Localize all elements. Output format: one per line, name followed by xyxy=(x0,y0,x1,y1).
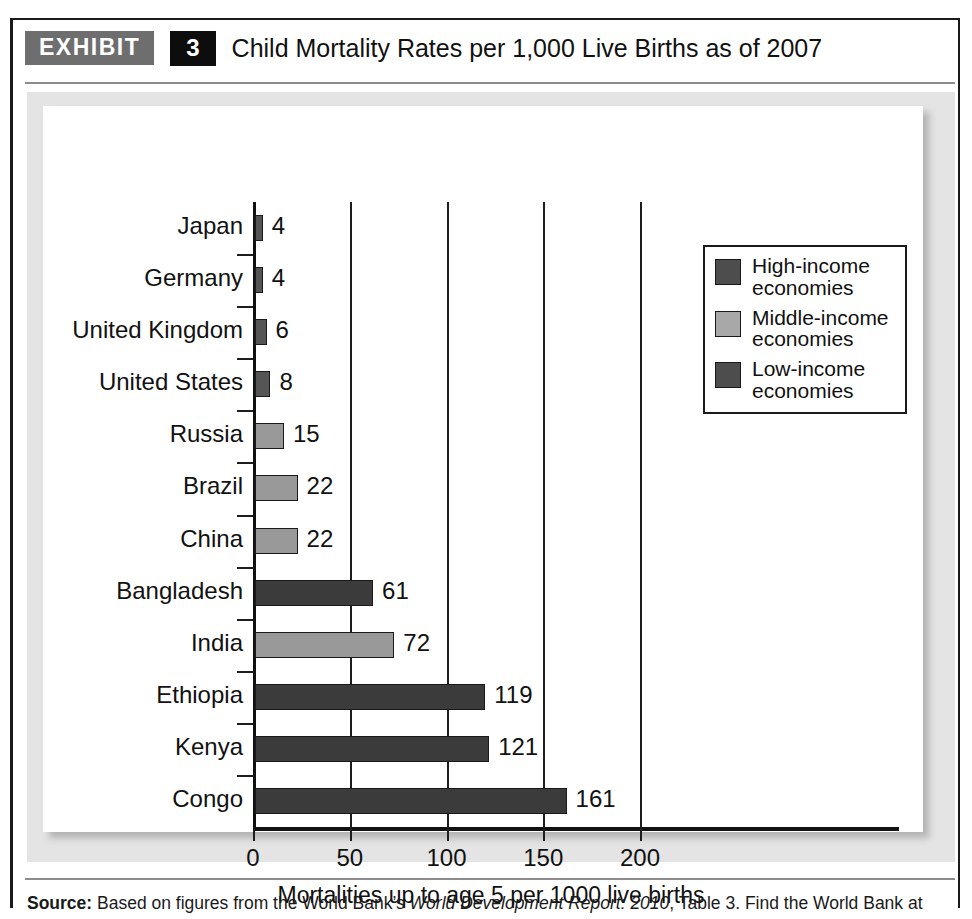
gridline-100 xyxy=(447,202,449,827)
legend-item-low-income: Low-incomeeconomies xyxy=(715,358,895,402)
x-tick-50 xyxy=(350,827,352,841)
chart-legend: High-incomeeconomies Middle-incomeeconom… xyxy=(703,245,907,414)
bar-bangladesh xyxy=(255,580,373,606)
category-label-ethiopia: Ethiopia xyxy=(27,681,243,709)
source-text-before: Based on figures from the World Bank’s xyxy=(92,893,409,913)
category-label-united-states: United States xyxy=(27,368,243,396)
bar-india xyxy=(255,632,394,658)
bar-united-states xyxy=(255,371,270,397)
category-label-united-kingdom: United Kingdom xyxy=(27,316,243,344)
y-tick-5 xyxy=(237,462,253,464)
legend-label-middle-income: Middle-incomeeconomies xyxy=(752,307,889,351)
x-tick-label-0: 0 xyxy=(246,844,259,872)
exhibit-frame: EXHIBIT 3 Child Mortality Rates per 1,00… xyxy=(10,18,960,908)
bar-russia xyxy=(255,423,284,449)
bar-value-india: 72 xyxy=(403,629,430,657)
y-tick-9 xyxy=(237,671,253,673)
bar-value-congo: 161 xyxy=(576,785,616,813)
category-label-germany: Germany xyxy=(27,264,243,292)
y-tick-7 xyxy=(237,567,253,569)
gridline-200 xyxy=(640,202,642,827)
y-tick-3 xyxy=(237,358,253,360)
y-tick-10 xyxy=(237,723,253,725)
bar-value-russia: 15 xyxy=(293,420,320,448)
exhibit-title: Child Mortality Rates per 1,000 Live Bir… xyxy=(232,34,823,63)
header-divider xyxy=(25,82,955,84)
category-label-brazil: Brazil xyxy=(27,472,243,500)
category-label-china: China xyxy=(27,525,243,553)
x-tick-label-100: 100 xyxy=(426,844,466,872)
x-tick-0 xyxy=(253,827,255,841)
legend-item-middle-income: Middle-incomeeconomies xyxy=(715,307,895,351)
category-label-kenya: Kenya xyxy=(27,733,243,761)
bar-value-kenya: 121 xyxy=(498,733,538,761)
bar-germany xyxy=(255,267,263,293)
x-tick-150 xyxy=(543,827,545,841)
legend-label-high-income: High-incomeeconomies xyxy=(752,255,870,299)
x-tick-label-150: 150 xyxy=(523,844,563,872)
category-label-india: India xyxy=(27,629,243,657)
bar-value-ethiopia: 119 xyxy=(494,681,532,709)
bar-value-japan: 4 xyxy=(272,212,285,240)
bar-china xyxy=(255,528,298,554)
category-label-russia: Russia xyxy=(27,420,243,448)
bar-congo xyxy=(255,788,567,814)
exhibit-page: EXHIBIT 3 Child Mortality Rates per 1,00… xyxy=(0,0,972,919)
category-label-japan: Japan xyxy=(27,212,243,240)
y-axis-line xyxy=(253,202,256,827)
source-divider xyxy=(25,878,955,880)
bar-value-china: 22 xyxy=(307,525,334,553)
gridline-150 xyxy=(543,202,545,827)
y-tick-11 xyxy=(237,775,253,777)
exhibit-tag: EXHIBIT xyxy=(25,31,154,65)
bar-japan xyxy=(255,215,263,241)
bar-value-germany: 4 xyxy=(272,264,285,292)
bar-ethiopia xyxy=(255,684,485,710)
y-tick-2 xyxy=(237,306,253,308)
category-label-congo: Congo xyxy=(27,785,243,813)
x-tick-label-50: 50 xyxy=(336,844,363,872)
source-note: Source: Based on figures from the World … xyxy=(27,892,957,919)
source-report-title: World Development Report: 2010 xyxy=(410,893,670,913)
legend-swatch-high-income xyxy=(715,259,741,285)
y-tick-4 xyxy=(237,410,253,412)
legend-swatch-middle-income xyxy=(715,311,741,337)
legend-swatch-low-income xyxy=(715,362,741,388)
y-tick-6 xyxy=(237,515,253,517)
bar-brazil xyxy=(255,475,298,501)
bar-value-united-states: 8 xyxy=(279,368,292,396)
chart-panel: 050100150200 Japan4Germany4United Kingdo… xyxy=(27,92,955,862)
legend-label-low-income: Low-incomeeconomies xyxy=(752,358,865,402)
bar-kenya xyxy=(255,736,489,762)
bar-united-kingdom xyxy=(255,319,267,345)
source-label: Source: xyxy=(27,893,92,913)
y-tick-8 xyxy=(237,619,253,621)
bar-value-united-kingdom: 6 xyxy=(276,316,289,344)
x-tick-200 xyxy=(640,827,642,841)
category-label-bangladesh: Bangladesh xyxy=(27,577,243,605)
x-tick-100 xyxy=(447,827,449,841)
exhibit-number-badge: 3 xyxy=(170,31,215,66)
bar-value-brazil: 22 xyxy=(307,472,334,500)
exhibit-header: EXHIBIT 3 Child Mortality Rates per 1,00… xyxy=(25,28,822,68)
gridline-50 xyxy=(350,202,352,827)
legend-item-high-income: High-incomeeconomies xyxy=(715,255,895,299)
x-tick-label-200: 200 xyxy=(620,844,660,872)
bar-value-bangladesh: 61 xyxy=(382,577,409,605)
y-tick-1 xyxy=(237,254,253,256)
